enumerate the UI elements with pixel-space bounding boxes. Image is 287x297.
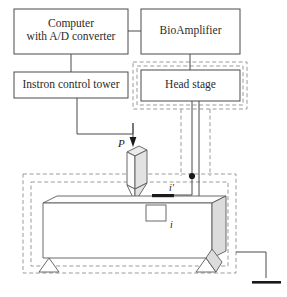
headstage-shield-inner xyxy=(137,66,243,105)
indenter-front-face xyxy=(127,152,135,189)
electrode-i-icon xyxy=(146,205,166,221)
support-left-icon xyxy=(39,258,59,272)
beam-specimen-front-face xyxy=(43,203,212,258)
beam-specimen-top-face xyxy=(43,196,226,203)
wire-headstage-to-electrode-i-prime xyxy=(168,101,192,195)
box-computer[interactable] xyxy=(14,9,128,54)
beam-specimen-end-face xyxy=(212,196,226,258)
load-arrow-icon xyxy=(130,137,137,147)
ground-symbol-icon xyxy=(252,281,281,284)
schematic-drawing xyxy=(0,0,287,297)
box-bioamplifier[interactable] xyxy=(141,9,240,54)
wire-junction-dot-icon xyxy=(189,173,195,179)
box-head-stage[interactable] xyxy=(141,70,240,101)
box-instron-control-tower[interactable] xyxy=(14,72,128,98)
indenter-side-face xyxy=(135,150,147,189)
electrode-i-prime-icon xyxy=(152,194,174,197)
figure-canvas: Computer with A/D converter BioAmplifier… xyxy=(0,0,287,297)
wire-instron-to-indenter xyxy=(77,98,133,134)
wire-cage-to-ground xyxy=(236,252,266,278)
